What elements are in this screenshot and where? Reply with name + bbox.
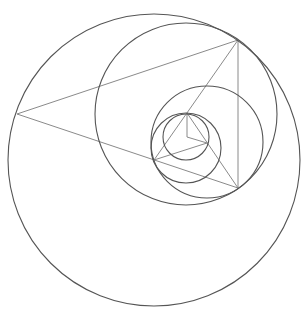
line-t1-top: [17, 40, 238, 114]
line-t2-left: [154, 40, 238, 160]
triangle-lines: [17, 40, 238, 188]
spiral-triangle-circle-diagram: [0, 0, 301, 311]
line-t3-base: [154, 143, 207, 160]
line-t2-right: [187, 113, 238, 188]
tangent-circles: [8, 14, 300, 306]
